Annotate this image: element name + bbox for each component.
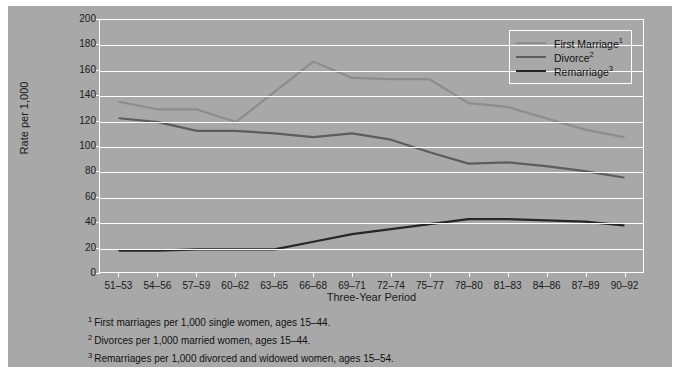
y-axis-tick-mark [96,95,100,96]
x-axis-tick-mark [157,273,158,277]
legend-item-remarriage: Remarriage3 [516,64,623,78]
legend-footnote-marker: 1 [619,36,623,45]
footnote-item: 1First marriages per 1,000 single women,… [88,313,394,331]
gridline [100,96,643,97]
chart-legend: First Marriage1Divorce2Remarriage3 [509,30,632,84]
x-axis-tick-mark [469,273,470,277]
footnote-item: 2Divorces per 1,000 married women, ages … [88,331,394,349]
y-axis-tick-label: 180 [62,39,96,49]
gridline [100,122,643,123]
legend-label: Remarriage3 [554,64,613,78]
x-axis-tick-mark [547,273,548,277]
x-axis-tick-mark [625,273,626,277]
x-axis-tick-label: 90–92 [602,280,648,291]
x-axis-tick-mark [235,273,236,277]
footnote-marker: 1 [88,315,92,324]
legend-footnote-marker: 3 [609,64,613,73]
chart-figure: Rate per 1,000 0204060801001201401601802… [8,6,672,367]
x-axis-tick-mark [274,273,275,277]
y-axis-tick-label: 100 [62,141,96,151]
footnotes: 1First marriages per 1,000 single women,… [88,313,394,366]
y-axis-tick-label: 120 [62,116,96,126]
gridline [100,249,643,250]
y-axis-tick-label: 40 [62,217,96,227]
y-axis-tick-label: 20 [62,243,96,253]
y-axis-title: Rate per 1,000 [18,58,30,178]
footnote-item: 3Remarriages per 1,000 divorced and wido… [88,349,394,367]
legend-swatch [516,70,546,72]
x-axis-tick-mark [391,273,392,277]
y-axis-tick-mark [96,146,100,147]
y-axis-ticks: 020406080100120140160180200 [56,19,96,273]
gridline [100,147,643,148]
footnote-marker: 2 [88,333,92,342]
y-axis-tick-mark [96,248,100,249]
legend-label: First Marriage1 [554,36,623,50]
x-axis-tick-mark [352,273,353,277]
footnote-marker: 3 [88,351,92,360]
x-axis-tick-mark [508,273,509,277]
y-axis-tick-mark [96,222,100,223]
legend-label: Divorce2 [554,50,594,64]
y-axis-tick-mark [96,70,100,71]
x-axis-tick-mark [118,273,119,277]
y-axis-tick-label: 60 [62,192,96,202]
gridline [100,198,643,199]
y-axis-tick-mark [96,19,100,20]
x-axis-title: Three-Year Period [99,291,644,303]
y-axis-tick-mark [96,273,100,274]
y-axis-tick-mark [96,171,100,172]
legend-swatch [516,42,546,44]
legend-swatch [516,56,546,58]
gridline [100,223,643,224]
y-axis-tick-label: 140 [62,90,96,100]
y-axis-tick-label: 0 [62,268,96,278]
y-axis-tick-label: 80 [62,166,96,176]
y-axis-tick-mark [96,197,100,198]
legend-footnote-marker: 2 [590,50,594,59]
legend-item-first-marriage: First Marriage1 [516,36,623,50]
gridline [100,172,643,173]
y-axis-tick-mark [96,121,100,122]
x-axis-tick-mark [430,273,431,277]
y-axis-tick-label: 160 [62,65,96,75]
legend-item-divorce: Divorce2 [516,50,623,64]
y-axis-tick-label: 200 [62,14,96,24]
x-axis-tick-mark [196,273,197,277]
x-axis-tick-mark [586,273,587,277]
x-axis-tick-mark [313,273,314,277]
y-axis-tick-mark [96,44,100,45]
